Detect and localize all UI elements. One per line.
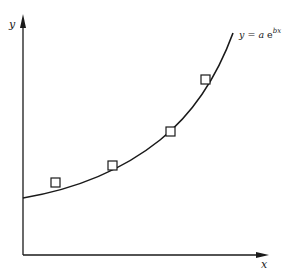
equation-base: e [264, 29, 273, 40]
data-point-square-2 [108, 161, 117, 170]
fitted-exponential-curve [23, 33, 233, 198]
curve-equation-label: y = a ebx [238, 27, 281, 40]
equation-prefix: y = [238, 29, 258, 40]
y-axis-label: y [8, 18, 16, 31]
equation-exponent: bx [273, 27, 281, 35]
data-point-square-1 [51, 178, 60, 187]
x-axis-label: x [261, 258, 268, 271]
exponential-fit-diagram: y x y = a ebx [0, 0, 296, 277]
data-point-square-3 [166, 127, 175, 136]
data-point-square-4 [201, 75, 210, 84]
y-axis-arrow-icon [20, 14, 26, 28]
